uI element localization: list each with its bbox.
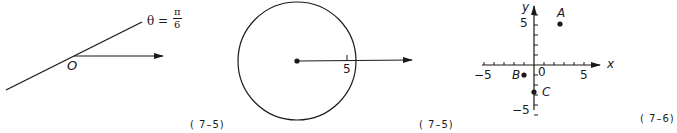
x-tick-label-pos: 5 — [580, 69, 588, 81]
x-axis-label: x — [607, 58, 614, 70]
figure-3-cartesian — [482, 6, 600, 115]
point-c — [531, 89, 536, 94]
figure-2-caption: ( 7–5) — [419, 119, 454, 130]
point-b-label: B — [512, 69, 520, 81]
x-tick-label-neg: −5 — [474, 69, 492, 81]
fraction-denominator: 6 — [174, 19, 180, 30]
point-b — [521, 72, 526, 77]
y-axis-label: y — [522, 1, 529, 13]
diagram-canvas — [0, 0, 677, 133]
point-a — [557, 21, 562, 26]
y-tick-label-pos: 5 — [520, 17, 528, 29]
figure-2-circle — [238, 2, 412, 120]
y-tick-label-neg: −5 — [512, 104, 530, 116]
radius-label: 5 — [343, 63, 351, 75]
point-c-label: C — [542, 86, 550, 98]
point-a-label: A — [557, 7, 565, 19]
figure-1-caption: ( 7–5) — [190, 119, 225, 130]
angle-label: θ = — [147, 15, 168, 27]
polar-axis-ray — [297, 60, 412, 61]
origin-label: 0 — [538, 66, 546, 78]
figure-3-caption: ( 7–6) — [640, 113, 675, 124]
fraction-numerator: π — [173, 7, 182, 19]
origin-label: O — [67, 59, 77, 72]
figure-1-angle — [6, 22, 163, 90]
angle-fraction: π 6 — [173, 7, 182, 30]
